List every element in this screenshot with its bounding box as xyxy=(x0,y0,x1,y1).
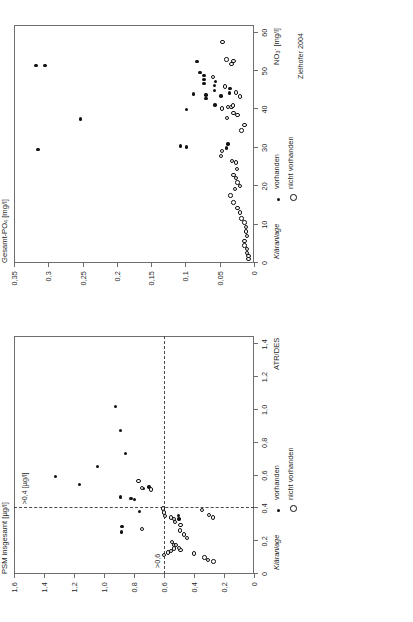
y-tick xyxy=(194,574,195,578)
y-tick xyxy=(254,263,255,267)
y-tick xyxy=(134,574,135,578)
legend-title-klaeranlage-2: Kläranlage xyxy=(272,534,281,569)
data-point xyxy=(77,482,80,485)
data-point xyxy=(232,187,236,191)
annotation-label: >0,4 [µg/l] xyxy=(20,472,29,504)
data-point xyxy=(140,526,144,530)
data-point xyxy=(233,175,237,179)
data-point xyxy=(210,515,214,519)
y-tick-label: 0,35 xyxy=(9,271,18,286)
data-point xyxy=(224,146,227,149)
x-tick-label: 50 xyxy=(260,66,269,74)
data-point xyxy=(234,166,238,170)
plot-area-phosphate-nitrate xyxy=(14,25,254,263)
data-point xyxy=(191,92,194,95)
x-tick xyxy=(254,146,258,147)
data-point xyxy=(195,59,198,62)
data-point xyxy=(239,128,243,132)
data-point xyxy=(124,451,127,454)
x-tick xyxy=(254,185,258,186)
data-point xyxy=(218,154,222,158)
data-point xyxy=(238,210,242,214)
data-point xyxy=(137,509,140,512)
y-tick-label: 0,15 xyxy=(146,271,155,286)
y-tick xyxy=(44,574,45,578)
reference-line-horizontal xyxy=(164,336,165,574)
data-point xyxy=(140,485,144,489)
y-tick xyxy=(116,263,117,267)
y-tick-label: 1,6 xyxy=(9,582,18,592)
data-point xyxy=(231,58,235,62)
data-point xyxy=(177,528,181,532)
plot-area-psm-atrdes xyxy=(14,336,254,574)
data-point xyxy=(220,40,224,44)
data-point xyxy=(95,464,98,467)
data-point xyxy=(78,117,81,120)
data-point xyxy=(212,83,215,86)
data-point xyxy=(228,87,231,90)
y-tick-label: 1,4 xyxy=(39,582,48,592)
data-point xyxy=(191,551,195,555)
data-point xyxy=(185,535,189,539)
legend-marker-vorhanden-2 xyxy=(276,508,279,511)
x-tick xyxy=(254,31,258,32)
y-axis-title-psm: PSM insgesamt [µg/l] xyxy=(0,502,9,574)
x-tick-label: 0 xyxy=(260,260,269,264)
chart-phosphate-nitrate: Gesamt-PO4 [mg/l] NO3- [mg/l] Kläranlage… xyxy=(0,0,311,311)
y-tick-label: 0,3 xyxy=(43,271,52,281)
legend-marker-vorhanden xyxy=(276,197,279,200)
x-tick xyxy=(254,441,258,442)
data-point xyxy=(136,479,140,483)
data-point xyxy=(235,205,239,209)
figure-page: Gesamt-PO4 [mg/l] NO3- [mg/l] Kläranlage… xyxy=(0,0,413,622)
data-point xyxy=(129,496,132,499)
y-tick-label: 0,8 xyxy=(129,582,138,592)
x-tick xyxy=(254,540,258,541)
data-point xyxy=(235,112,239,116)
x-tick-label: 10 xyxy=(260,220,269,228)
x-tick xyxy=(254,108,258,109)
y-tick xyxy=(254,574,255,578)
data-point xyxy=(53,474,56,477)
x-tick-label: 0,2 xyxy=(260,535,269,545)
data-point xyxy=(34,63,37,66)
data-point xyxy=(211,559,215,563)
x-tick xyxy=(254,474,258,475)
y-tick-label: 0,2 xyxy=(112,271,121,281)
y-tick xyxy=(151,263,152,267)
data-point xyxy=(118,495,121,498)
x-tick xyxy=(254,376,258,377)
data-point xyxy=(243,224,247,228)
legend-label-nicht-vorhanden: nicht vorhanden xyxy=(286,136,295,189)
data-point xyxy=(133,497,136,500)
chart-psm-atrdes: PSM insgesamt [µg/l] ATR/DES Kläranlage … xyxy=(0,311,311,622)
legend-marker-nicht-vorhanden xyxy=(290,194,297,201)
y-tick xyxy=(82,263,83,267)
data-point xyxy=(244,233,248,237)
x-tick-label: 0,4 xyxy=(260,503,269,513)
y-tick-label: 0,05 xyxy=(215,271,224,286)
data-point xyxy=(204,97,207,100)
x-tick-label: 0,6 xyxy=(260,470,269,480)
x-tick-label: 1,0 xyxy=(260,404,269,414)
data-point xyxy=(178,522,182,526)
data-point xyxy=(210,75,214,79)
y-tick-label: 0,4 xyxy=(189,582,198,592)
data-point xyxy=(202,81,205,84)
data-point xyxy=(227,91,230,94)
data-point xyxy=(149,487,153,491)
data-point xyxy=(213,103,216,106)
data-point xyxy=(242,122,246,126)
data-point xyxy=(204,93,207,96)
data-point xyxy=(242,238,246,242)
data-point xyxy=(228,193,232,197)
legend-title-klaeranlage: Kläranlage xyxy=(272,223,281,258)
data-point xyxy=(213,79,216,82)
y-tick-label: 1,2 xyxy=(69,582,78,592)
data-point xyxy=(120,524,123,527)
y-tick xyxy=(164,574,165,578)
y-tick-label: 0,25 xyxy=(78,271,87,286)
data-point xyxy=(43,63,46,66)
legend-label-vorhanden: vorhanden xyxy=(272,154,281,189)
data-point xyxy=(202,73,205,76)
